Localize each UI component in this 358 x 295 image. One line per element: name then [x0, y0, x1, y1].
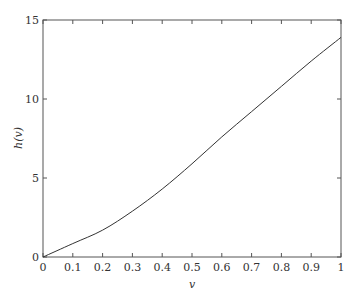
line-chart: 00.10.20.30.40.50.60.70.80.91 051015 v h… [0, 0, 358, 295]
plot-border [43, 20, 341, 257]
x-tick-label: 0.1 [64, 261, 82, 274]
x-tick-label: 0 [40, 261, 47, 274]
y-tick-label: 15 [25, 14, 39, 27]
x-tick-label: 0.5 [183, 261, 201, 274]
plot-frame [43, 20, 341, 257]
axis-ticks [43, 20, 341, 257]
y-tick-label: 0 [32, 251, 39, 264]
data-line-h-of-v [43, 37, 341, 257]
x-tick-label: 0.6 [213, 261, 231, 274]
x-tick-label: 0.2 [94, 261, 112, 274]
y-axis-label: h(v) [12, 127, 25, 149]
x-tick-label: 0.7 [243, 261, 261, 274]
x-tick-label: 0.3 [124, 261, 142, 274]
x-axis-label: v [189, 278, 196, 291]
y-tick-label: 5 [32, 172, 39, 185]
y-tick-labels: 051015 [25, 14, 39, 264]
x-tick-label: 0.4 [153, 261, 171, 274]
y-tick-label: 10 [25, 93, 39, 106]
x-tick-label: 1 [338, 261, 345, 274]
x-tick-label: 0.9 [302, 261, 320, 274]
x-tick-labels: 00.10.20.30.40.50.60.70.80.91 [40, 261, 345, 274]
x-tick-label: 0.8 [273, 261, 291, 274]
